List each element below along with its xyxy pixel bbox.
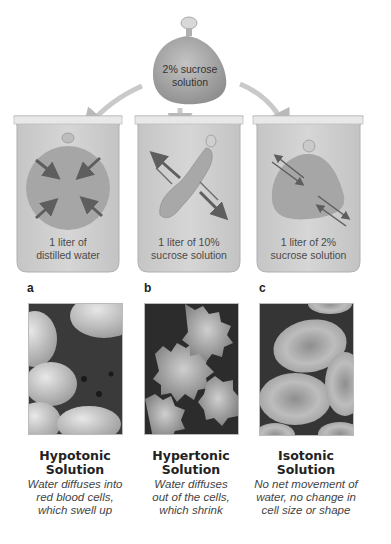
caption-desc-line2: out of the cells, <box>126 491 256 504</box>
beaker-b-label: 1 liter of 10% sucrose solution <box>138 236 240 262</box>
caption-title-line2: Solution <box>251 463 361 477</box>
caption-title-isotonic: Isotonic Solution <box>251 449 361 477</box>
cropped-text-line <box>35 536 375 544</box>
caption-desc-line3: which shrink <box>126 504 256 517</box>
caption-title-hypotonic: Hypotonic Solution <box>20 449 130 477</box>
caption-title-line1: Hypotonic <box>20 449 130 463</box>
micrograph-isotonic <box>259 303 354 436</box>
beaker-c-label: 1 liter of 2% sucrose solution <box>257 236 360 262</box>
beaker-c-line2: sucrose solution <box>257 249 360 262</box>
caption-title-line1: Hypertonic <box>136 449 246 463</box>
caption-desc-line1: Water diffuses <box>126 478 256 491</box>
micrograph-hypotonic <box>28 303 123 435</box>
caption-desc-isotonic: No net movement of water, no change in c… <box>241 478 371 517</box>
micrograph-hypertonic <box>144 303 239 435</box>
beaker-a-label: 1 liter of distilled water <box>17 236 119 262</box>
beaker-a-line2: distilled water <box>17 249 119 262</box>
panel-letter-c: c <box>259 281 266 295</box>
caption-title-line2: Solution <box>136 463 246 477</box>
caption-desc-line1: No net movement of <box>241 478 371 491</box>
panel-letter-a: a <box>27 281 34 295</box>
caption-desc-hypotonic: Water diffuses into red blood cells, whi… <box>10 478 140 517</box>
source-bag-label: 2% sucrose solution <box>152 63 228 89</box>
panel-letter-b: b <box>144 281 151 295</box>
caption-desc-line3: which swell up <box>10 504 140 517</box>
shrunken-cells-image <box>145 304 238 434</box>
caption-title-line1: Isotonic <box>251 449 361 463</box>
normal-cells-image <box>260 304 353 435</box>
beaker-b-line2: sucrose solution <box>138 249 240 262</box>
caption-title-hypertonic: Hypertonic Solution <box>136 449 246 477</box>
caption-desc-line2: water, no change in <box>241 491 371 504</box>
bag-label-line1: 2% sucrose <box>152 63 228 76</box>
caption-desc-hypertonic: Water diffuses out of the cells, which s… <box>126 478 256 517</box>
swollen-cells-image <box>29 304 122 434</box>
caption-desc-line3: cell size or shape <box>241 504 371 517</box>
beaker-a-line1: 1 liter of <box>17 236 119 249</box>
caption-desc-line2: red blood cells, <box>10 491 140 504</box>
source-bag-icon <box>153 17 226 104</box>
caption-title-line2: Solution <box>20 463 130 477</box>
bag-label-line2: solution <box>152 76 228 89</box>
beaker-c-line1: 1 liter of 2% <box>257 236 360 249</box>
caption-desc-line1: Water diffuses into <box>10 478 140 491</box>
beaker-b-line1: 1 liter of 10% <box>138 236 240 249</box>
